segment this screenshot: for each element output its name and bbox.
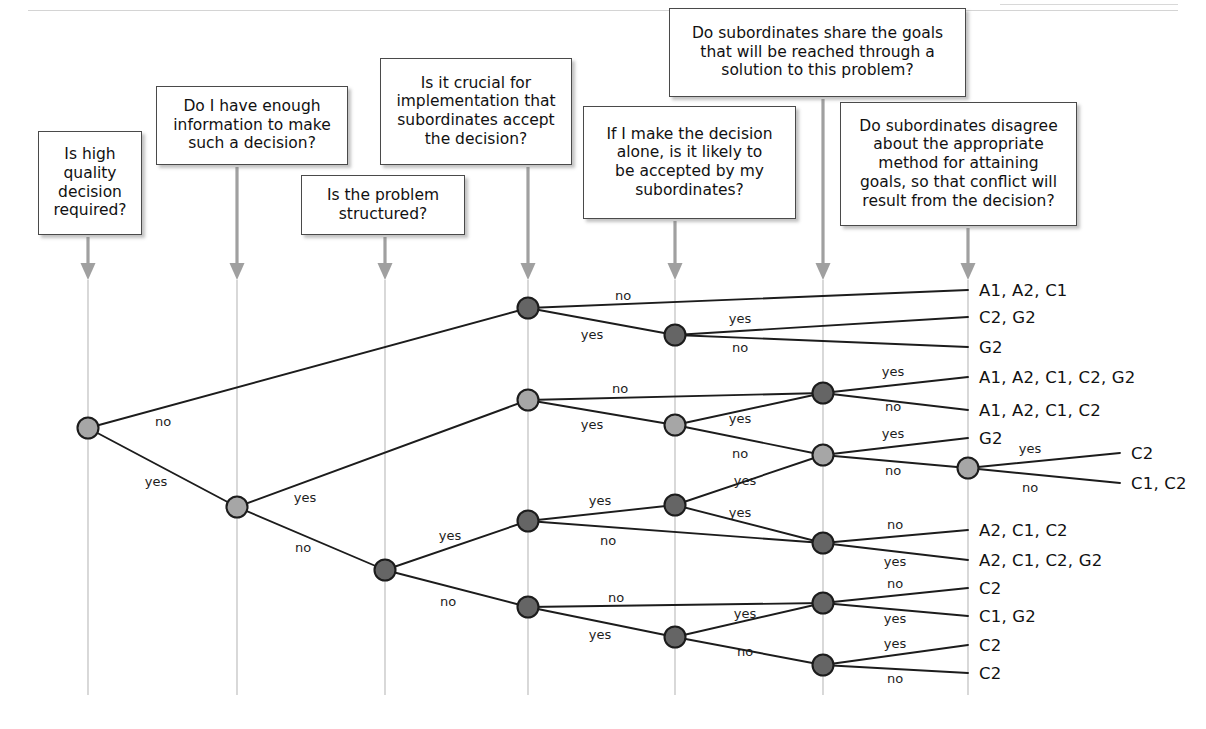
outcome-label-12: C2 [979, 636, 1001, 655]
branch-label-yes-1: yes [145, 474, 167, 489]
edge-no-0 [88, 308, 528, 428]
outcome-label-8: A2, C1, C2 [979, 521, 1068, 540]
decision-node-n12[interactable] [813, 383, 834, 404]
question-text-q4: Is it crucial forimplementation thatsubo… [388, 74, 564, 149]
branch-label-yes-7: yes [581, 327, 603, 342]
question-text-q3: Is the problemstructured? [309, 186, 457, 224]
branch-label-yes-2: yes [294, 490, 316, 505]
question-text-q6: Do subordinates share the goalsthat will… [677, 24, 958, 80]
edge-no-6 [528, 290, 968, 308]
branch-label-yes-16: yes [882, 426, 904, 441]
edge-yes-18 [968, 453, 1120, 468]
branch-label-no-26: no [608, 590, 624, 605]
branch-label-yes-28: yes [734, 606, 756, 621]
question-box-q1[interactable]: Is highqualitydecisionrequired? [38, 131, 142, 235]
question-box-q2[interactable]: Do I have enoughinformation to makesuch … [156, 86, 348, 165]
axis-arrow-head-q7 [961, 263, 976, 280]
branch-label-yes-32: yes [884, 636, 906, 651]
question-text-q2: Do I have enoughinformation to makesuch … [164, 97, 340, 153]
question-text-q5: If I make the decisionalone, is it likel… [591, 125, 788, 200]
decision-node-n10[interactable] [665, 495, 686, 516]
branch-label-yes-31: yes [884, 611, 906, 626]
decision-node-n15[interactable] [813, 593, 834, 614]
branch-label-no-10: no [612, 381, 628, 396]
decision-node-n8[interactable] [665, 325, 686, 346]
decision-node-n9[interactable] [665, 415, 686, 436]
outcome-label-9: A2, C1, C2, G2 [979, 551, 1102, 570]
outcome-label-13: C2 [979, 664, 1001, 683]
question-box-q6[interactable]: Do subordinates share the goalsthat will… [669, 8, 966, 97]
edge-no-15 [675, 425, 823, 455]
question-box-q4[interactable]: Is it crucial forimplementation thatsubo… [380, 58, 572, 165]
axis-arrow-head-q4 [521, 263, 536, 280]
branch-label-no-9: no [732, 340, 748, 355]
decision-node-n14[interactable] [813, 533, 834, 554]
edge-yes-2 [237, 400, 528, 507]
outcome-label-0: A1, A2, C1 [979, 281, 1068, 300]
branch-label-yes-11: yes [581, 417, 603, 432]
decision-node-n5[interactable] [518, 390, 539, 411]
decision-node-n4[interactable] [518, 298, 539, 319]
question-box-q7[interactable]: Do subordinates disagreeabout the approp… [840, 102, 1077, 226]
outcome-label-10: C2 [979, 579, 1001, 598]
edge-no-3 [237, 507, 385, 570]
edge-no-5 [385, 570, 528, 607]
axis-arrow-head-q3 [378, 263, 393, 280]
branch-label-yes-27: yes [589, 627, 611, 642]
axis-arrow-head-q6 [816, 263, 831, 280]
question-text-q1: Is highqualitydecisionrequired? [46, 145, 134, 220]
branch-label-no-21: no [600, 533, 616, 548]
outcome-label-11: C1, G2 [979, 607, 1036, 626]
branch-label-yes-8: yes [729, 311, 751, 326]
decision-node-n16[interactable] [813, 655, 834, 676]
outcome-label-4: A1, A2, C1, C2 [979, 401, 1101, 420]
branch-label-no-3: no [295, 540, 311, 555]
branch-label-no-17: no [885, 463, 901, 478]
decision-node-n3[interactable] [375, 560, 396, 581]
outcome-label-6: C2 [1131, 444, 1153, 463]
branch-label-no-0: no [155, 414, 171, 429]
decision-tree-diagram: Is highqualitydecisionrequired?Do I have… [0, 0, 1206, 729]
question-box-q3[interactable]: Is the problemstructured? [301, 175, 465, 235]
decision-node-n13[interactable] [813, 445, 834, 466]
decision-node-n1[interactable] [78, 418, 99, 439]
branch-label-yes-18: yes [1019, 441, 1041, 456]
branch-label-no-19: no [1022, 480, 1038, 495]
branch-label-yes-14: yes [729, 411, 751, 426]
edge-yes-12 [823, 377, 968, 393]
question-text-q7: Do subordinates disagreeabout the approp… [848, 117, 1069, 211]
branch-label-no-5: no [440, 594, 456, 609]
branch-label-no-6: no [615, 288, 631, 303]
outcome-label-3: A1, A2, C1, C2, G2 [979, 368, 1135, 387]
branch-label-yes-22: yes [734, 473, 756, 488]
branch-label-yes-25: yes [884, 554, 906, 569]
branch-label-yes-4: yes [439, 528, 461, 543]
branch-label-yes-20: yes [589, 493, 611, 508]
decision-node-n7[interactable] [518, 597, 539, 618]
edge-yes-8 [675, 317, 968, 335]
axis-arrow-head-q5 [668, 263, 683, 280]
outcome-label-2: G2 [979, 338, 1003, 357]
edge-yes-1 [88, 428, 237, 507]
decision-node-n17[interactable] [958, 458, 979, 479]
decision-node-n11[interactable] [665, 627, 686, 648]
branch-label-no-15: no [732, 446, 748, 461]
outcome-label-1: C2, G2 [979, 308, 1036, 327]
branch-label-yes-23: yes [729, 505, 751, 520]
outcome-label-7: C1, C2 [1131, 474, 1187, 493]
edge-no-19 [968, 468, 1120, 483]
branch-label-no-30: no [887, 576, 903, 591]
branch-label-no-29: no [737, 644, 753, 659]
branch-label-no-13: no [885, 399, 901, 414]
question-box-q5[interactable]: If I make the decisionalone, is it likel… [583, 106, 796, 219]
decision-node-n6[interactable] [518, 511, 539, 532]
axis-arrow-head-q1 [81, 263, 96, 280]
edge-no-24 [823, 530, 968, 543]
decision-node-n2[interactable] [227, 497, 248, 518]
edge-no-9 [675, 335, 968, 347]
branch-label-no-24: no [887, 517, 903, 532]
outcome-label-5: G2 [979, 429, 1003, 448]
axis-arrow-head-q2 [230, 263, 245, 280]
edges-group [88, 290, 1120, 673]
branch-label-no-33: no [887, 671, 903, 686]
